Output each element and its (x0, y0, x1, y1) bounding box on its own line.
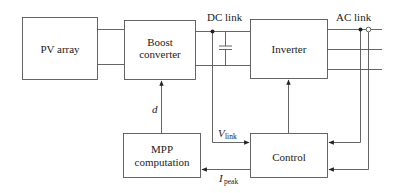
dc-link-node-dot (211, 30, 215, 34)
vlink-subscript: link (225, 132, 237, 141)
mpp-label-line1: MPP (151, 143, 173, 155)
pv-system-diagram: PV array Boost converter Inverter MPP co… (0, 0, 400, 193)
boost-label-line1: Boost (147, 36, 173, 48)
inverter-label: Inverter (272, 43, 307, 55)
ac-voltage-sense-arrow (329, 30, 361, 143)
mpp-label-line2: computation (135, 156, 190, 168)
pv-array-label: PV array (40, 43, 80, 55)
control-label: Control (272, 151, 306, 163)
dc-link-label: DC link (207, 11, 243, 23)
d-label: d (152, 103, 158, 115)
ipeak-subscript: peak (224, 177, 238, 186)
ac-link-label: AC link (336, 11, 372, 23)
ac-current-sense-arrow (329, 32, 369, 170)
capacitor-icon (219, 32, 232, 66)
boost-label-line2: converter (139, 48, 181, 60)
ac-voltage-node-dot (359, 28, 363, 32)
ac-current-sensor-circle (366, 27, 371, 32)
vlink-signal-arrow (213, 32, 250, 143)
